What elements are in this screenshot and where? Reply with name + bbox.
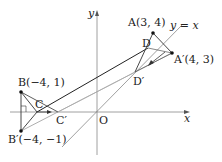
- y-axis-label: y: [87, 7, 95, 20]
- point-A-label: A(3, 4): [127, 16, 166, 29]
- arrow-head-icon: [47, 110, 52, 114]
- point-A: [151, 31, 155, 35]
- point-D-prime-label: D′: [133, 75, 145, 88]
- line-y-equals-x: [62, 24, 183, 147]
- point-B-prime-label: B′(−4, −1): [8, 133, 67, 146]
- segment-B-prime-C: [21, 112, 37, 131]
- segment-A-A-prime: [153, 33, 172, 53]
- right-angle-icon: [21, 106, 26, 112]
- origin-label: O: [99, 114, 108, 127]
- line-y-equals-x-label: y = x: [169, 19, 199, 32]
- point-C-prime-label: C′: [56, 114, 67, 127]
- x-axis-label: x: [184, 112, 191, 125]
- point-B: [19, 90, 23, 94]
- point-A-prime-label: A′(4, 3): [173, 53, 214, 66]
- coordinate-diagram: y x O y = x A(3, 4) A′(4, 3) B(−4, 1) B′…: [0, 0, 222, 162]
- y-axis-arrow-icon: [95, 10, 99, 16]
- point-D-label: D: [142, 37, 151, 50]
- point-B-label: B(−4, 1): [18, 76, 65, 89]
- point-C-label: C: [35, 98, 43, 111]
- arrow-head-icon: [148, 60, 154, 66]
